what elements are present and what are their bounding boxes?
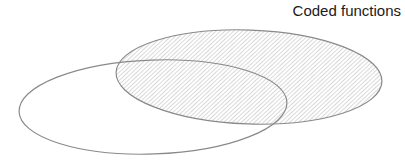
coded-functions-ellipse: [114, 25, 383, 128]
venn-diagram: [0, 0, 405, 162]
